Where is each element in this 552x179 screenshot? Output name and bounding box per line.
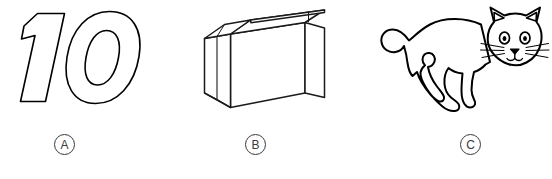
option-label-wrap-c: C: [368, 134, 552, 166]
number-ten-outline-illustration: [0, 0, 184, 128]
paper-bag-illustration: [184, 0, 368, 128]
figure-panel-row: A: [0, 0, 552, 179]
option-label-c: C: [460, 134, 481, 155]
option-panel-c[interactable]: C: [368, 0, 552, 179]
cat-illustration: [368, 0, 552, 128]
option-label-a: A: [54, 134, 75, 155]
option-panel-b[interactable]: B: [184, 0, 368, 179]
option-panel-a[interactable]: A: [0, 0, 184, 179]
option-label-b: B: [245, 134, 266, 155]
